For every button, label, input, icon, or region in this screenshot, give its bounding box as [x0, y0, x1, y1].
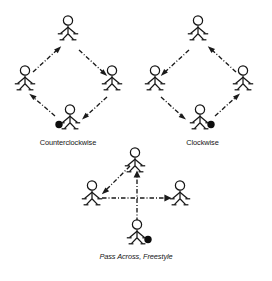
player-left: [15, 66, 35, 90]
soccer-ball-icon: [207, 121, 214, 128]
pass-bottom-to-left: [29, 94, 55, 116]
diagram-pass-across-freestyle: [82, 148, 190, 244]
pass-top-to-right: [79, 50, 107, 76]
player-left: [82, 181, 102, 205]
player-bottom-with-ball: [127, 220, 152, 244]
pass-right-to-bottom: [82, 97, 107, 120]
caption-counterclockwise: Counterclockwise: [0, 138, 136, 147]
soccer-ball-icon: [144, 236, 151, 243]
player-right: [102, 66, 122, 90]
player-right: [170, 181, 190, 205]
player-bottom-with-ball: [190, 105, 215, 129]
player-bottom-with-ball: [55, 105, 80, 129]
pass-left-to-bottom: [161, 97, 186, 120]
player-top: [188, 16, 208, 40]
caption-pass-across-freestyle: Pass Across, Freestyle: [0, 252, 272, 261]
player-top: [58, 16, 78, 40]
pass-left-to-top: [33, 46, 61, 72]
pass-bottom-to-right: [215, 93, 240, 116]
pass-bottom-to-top-vertical: [134, 171, 141, 223]
soccer-ball-icon: [55, 121, 62, 128]
pass-top-to-left-diagonal: [102, 166, 130, 194]
caption-clockwise: Clockwise: [140, 138, 265, 147]
diagram-clockwise: [145, 16, 253, 129]
player-right: [233, 66, 253, 90]
diagram-counterclockwise: [15, 16, 122, 129]
player-left: [145, 66, 165, 90]
diagram-root: Counterclockwise Clockwise Pass Across, …: [0, 0, 272, 281]
pass-right-to-top: [208, 46, 236, 72]
pass-top-to-left: [161, 50, 189, 76]
